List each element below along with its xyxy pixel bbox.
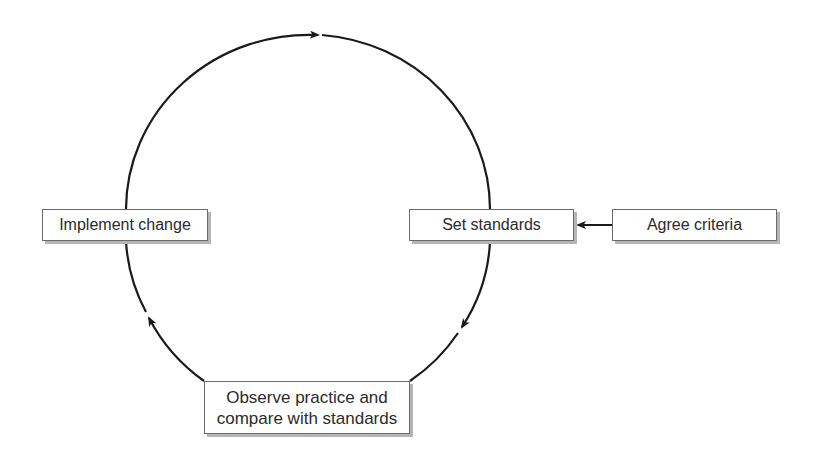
set-standards-label: Set standards [442, 215, 541, 235]
arc-lower-left-to-implement [126, 241, 146, 312]
agree-criteria-label: Agree criteria [647, 215, 742, 235]
arc-observe-to-lower-left [149, 318, 204, 381]
agree-criteria-box: Agree criteria [612, 209, 777, 241]
set-standards-box: Set standards [409, 209, 574, 241]
observe-practice-label-line-2: compare with standards [217, 408, 397, 429]
implement-change-box: Implement change [42, 209, 208, 241]
arc-set-standards-to-lower-right [462, 241, 490, 327]
arc-lower-right-to-observe [410, 333, 458, 381]
arc-implement-to-top [126, 35, 318, 209]
observe-practice-box: Observe practice and compare with standa… [204, 381, 410, 434]
observe-practice-label-line-1: Observe practice and [217, 387, 397, 408]
implement-change-label: Implement change [59, 215, 191, 235]
arc-top-to-set-standards [322, 35, 490, 209]
